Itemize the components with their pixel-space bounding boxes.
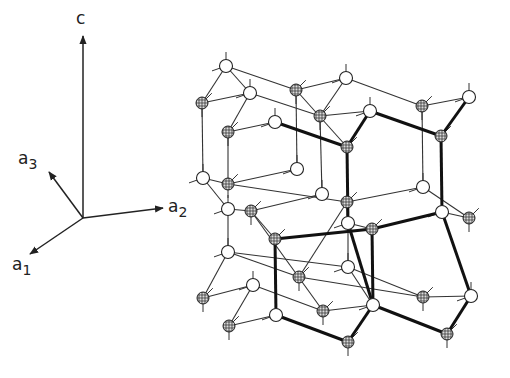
bond [423, 296, 471, 297]
highlighted-bond [442, 212, 471, 296]
axis-label-c: c [76, 10, 85, 27]
atom-white [367, 299, 380, 312]
bond [228, 169, 297, 184]
atom-white [465, 290, 478, 303]
atom-shaded [463, 212, 475, 224]
bond [228, 122, 275, 132]
atom-shaded [222, 126, 234, 138]
atom-shaded [223, 320, 235, 332]
atom-shaded [197, 292, 209, 304]
highlighted-bond [441, 97, 469, 136]
atom-shaded [441, 328, 453, 340]
bond [251, 211, 323, 311]
bond [203, 285, 253, 298]
highlighted-bond [373, 305, 447, 334]
bond [229, 315, 276, 326]
atom-shaded [416, 100, 428, 112]
atom-shaded [317, 305, 329, 317]
atom-shaded [342, 336, 354, 348]
bond [251, 194, 322, 211]
atom-white [247, 279, 260, 292]
highlighted-bond [370, 111, 441, 136]
crystal-axes [30, 36, 163, 254]
atom-white [222, 246, 235, 259]
atom-shaded [196, 97, 208, 109]
atom-white [436, 206, 449, 219]
bond [347, 187, 423, 202]
bond [348, 267, 423, 297]
bond [202, 93, 250, 103]
bonds [202, 66, 471, 326]
diagram-canvas [0, 0, 510, 378]
atom-shaded [366, 223, 378, 235]
bond [253, 285, 323, 311]
atom-white [222, 203, 235, 216]
atom-white [244, 87, 257, 100]
crystal-structure-diagram: ca3a2a1 [0, 0, 510, 378]
atom-shaded [341, 141, 353, 153]
atom-white [463, 91, 476, 104]
highlighted-bond [275, 239, 276, 315]
atom-white [316, 188, 329, 201]
atoms [196, 60, 478, 349]
atom-shaded [417, 291, 429, 303]
atom-shaded [269, 233, 281, 245]
highlighted-bond [372, 212, 442, 229]
highlighted-bond [276, 315, 348, 342]
atom-shaded [435, 130, 447, 142]
bond [203, 252, 228, 298]
atom-shaded [293, 271, 305, 283]
highlighted-bond [275, 229, 372, 239]
highlighted-bond [347, 147, 348, 223]
bond [228, 252, 348, 267]
atom-white [270, 309, 283, 322]
atom-white [417, 181, 430, 194]
bond [346, 78, 422, 106]
axis-a3-arrow [49, 172, 83, 218]
highlighted-bond [372, 229, 373, 305]
highlighted-bond [441, 136, 442, 212]
atom-white [342, 261, 355, 274]
atom-shaded [290, 84, 302, 96]
atom-shaded [314, 110, 326, 122]
atom-white [291, 163, 304, 176]
atom-white [364, 105, 377, 118]
bond [228, 184, 347, 202]
axis-a1-arrow [30, 218, 83, 254]
atom-shaded [245, 205, 257, 217]
atom-shaded [341, 196, 353, 208]
axis-a2-arrow [83, 208, 163, 218]
axis-label-a1: a1 [12, 256, 31, 277]
atom-white [220, 60, 233, 73]
atom-shaded [222, 178, 234, 190]
bond [299, 277, 423, 297]
bond [228, 252, 299, 277]
axis-label-a3: a3 [18, 150, 37, 171]
atom-white [340, 72, 353, 85]
axis-label-a2: a2 [168, 198, 187, 219]
bond [229, 285, 253, 326]
atom-white [269, 116, 282, 129]
atom-white [197, 172, 210, 185]
atom-white [342, 217, 355, 230]
